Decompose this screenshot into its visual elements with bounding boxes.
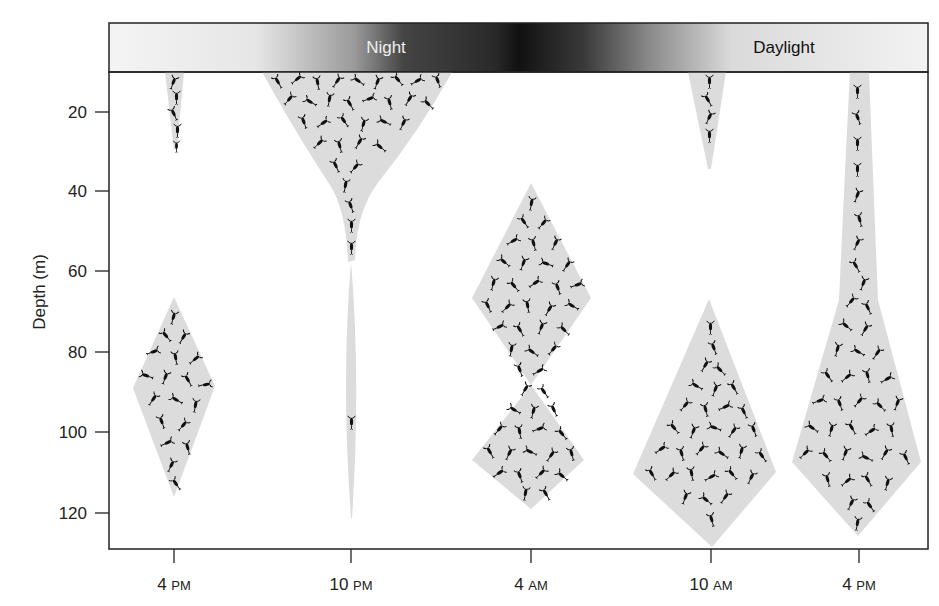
y-tick-100: 100 <box>59 423 87 442</box>
y-tick-80: 80 <box>68 343 87 362</box>
y-tick-20: 20 <box>68 103 87 122</box>
kite-4am-upper <box>472 183 591 385</box>
daylight-label: Daylight <box>753 38 815 57</box>
kite-10am-shallow <box>688 72 726 169</box>
x-tick-10pm: 10 PM <box>329 575 372 594</box>
kite-4pm-shallow <box>165 72 184 150</box>
night-label: Night <box>366 38 406 57</box>
x-tick-10am: 10 AM <box>689 575 732 594</box>
y-tick-120: 120 <box>59 504 87 523</box>
y-tick-40: 40 <box>68 182 87 201</box>
y-axis-title: Depth (m) <box>30 254 49 330</box>
x-axis: 4 PM 10 PM 4 AM 10 AM 4 PM <box>157 549 876 594</box>
y-axis: 20 40 60 80 100 120 Depth (m) <box>30 103 109 523</box>
kite-chart: Night Daylight <box>0 0 939 606</box>
header-band: Night Daylight <box>109 23 928 72</box>
x-tick-4am: 4 AM <box>514 575 548 594</box>
x-tick-4pm-2: 4 PM <box>842 575 876 594</box>
y-tick-60: 60 <box>68 262 87 281</box>
kites <box>133 72 921 547</box>
kite-10pm-spindle <box>346 262 356 518</box>
x-tick-4pm: 4 PM <box>157 575 191 594</box>
